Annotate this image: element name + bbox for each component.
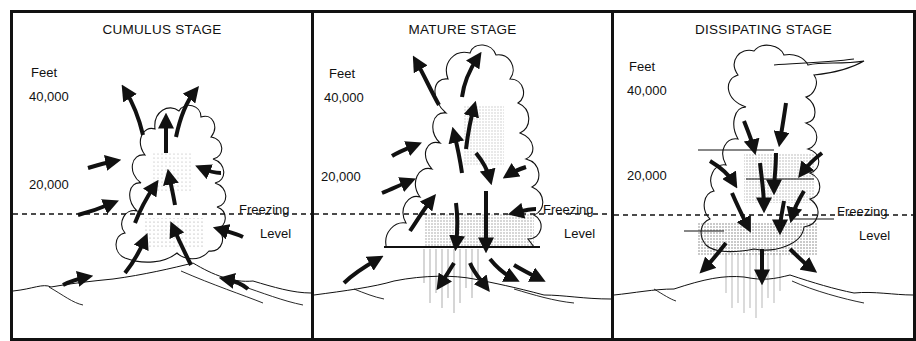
diagram-frame: CUMULUS STAGE Feet 40,000 20,000 Freezin… [10, 10, 916, 341]
panel-cumulus-stage: CUMULUS STAGE Feet 40,000 20,000 Freezin… [13, 13, 311, 338]
panel-dissipating-stage: DISSIPATING STAGE Feet 40,000 20,000 Fre… [614, 13, 913, 338]
mountain-ridge [314, 276, 611, 299]
panel-mature-stage: MATURE STAGE Feet 40,000 20,000 Freezing… [314, 13, 611, 338]
mature-cloud-illustration [314, 13, 611, 338]
cumulus-cloud-illustration [13, 13, 311, 338]
precipitation-streaks [726, 253, 780, 318]
precipitation-streaks [424, 249, 478, 313]
mountain-ridge [13, 263, 311, 293]
dissipating-cloud-illustration [614, 13, 913, 338]
